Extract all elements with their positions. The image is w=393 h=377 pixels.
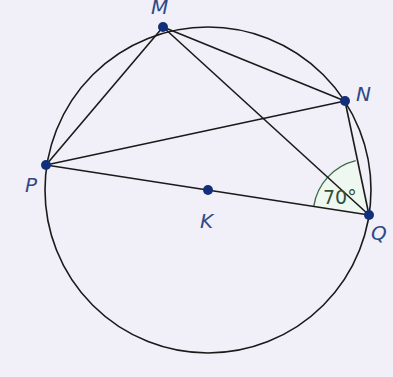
segment-mn	[163, 27, 345, 101]
point-q	[364, 210, 374, 220]
label-k: K	[200, 209, 215, 233]
label-n: N	[356, 82, 371, 106]
label-p: P	[25, 173, 38, 197]
point-p	[41, 160, 51, 170]
label-q: Q	[371, 221, 387, 245]
point-n	[340, 96, 350, 106]
label-m: M	[151, 0, 168, 19]
circle-diagram: M N P Q K 70°	[0, 0, 393, 377]
point-k	[203, 185, 213, 195]
point-m	[158, 22, 168, 32]
segment-pn	[46, 101, 345, 165]
angle-label-q: 70°	[323, 186, 357, 208]
